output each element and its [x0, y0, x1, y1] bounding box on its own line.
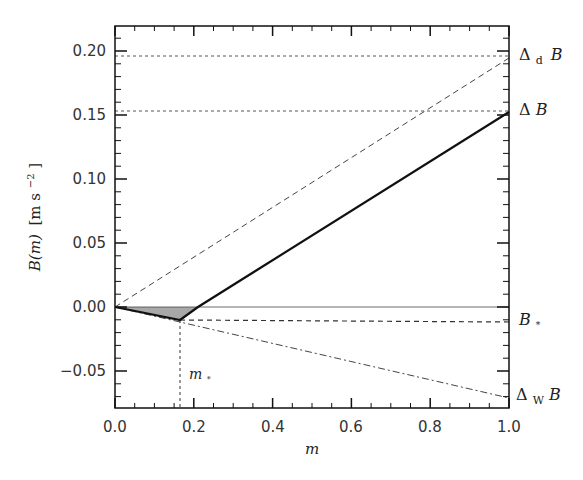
svg-text:B(m) [m s −2: B(m) [m s −2 ] — [20, 163, 44, 272]
svg-text:Δ B: Δ B — [519, 100, 548, 119]
y-tick-label: 0.05 — [73, 234, 106, 252]
annotation-m-star: m * — [189, 366, 211, 384]
y-tick-label: 0.00 — [73, 298, 106, 316]
svg-text:Δ W B: Δ W B — [516, 385, 561, 408]
x-tick-label: 0.2 — [182, 418, 206, 436]
x-tick-labels: 0.0 0.2 0.4 0.6 0.8 1.0 — [103, 418, 521, 436]
y-tick-label: 0.10 — [73, 170, 106, 188]
x-tick-label: 1.0 — [497, 418, 521, 436]
annotation-delta-w-b: Δ W B — [516, 385, 561, 408]
y-axis-label: B(m) [m s −2 ] — [20, 163, 44, 272]
annotation-delta-b: Δ B — [519, 100, 548, 119]
b-star-level — [180, 320, 509, 322]
annotation-delta-d-b: Δ d B — [519, 45, 563, 68]
annotation-b-star: B * — [518, 310, 541, 330]
svg-text:Δ d B: Δ d B — [519, 45, 563, 68]
x-axis-label: m — [305, 440, 319, 458]
y-tick-labels: 0.20 0.15 0.10 0.05 0.00 −0.05 — [60, 42, 106, 380]
y-label-main: B(m) — [26, 234, 44, 272]
x-tick-label: 0.6 — [339, 418, 363, 436]
svg-text:B *: B * — [518, 310, 541, 330]
y-label-close: ] — [26, 163, 44, 169]
y-tick-label: 0.15 — [73, 106, 106, 124]
svg-text:m *: m * — [189, 366, 211, 384]
y-tick-label: 0.20 — [73, 42, 106, 60]
mixing-line — [115, 112, 509, 320]
delta-w-b-line — [115, 307, 509, 398]
plot-frame — [115, 26, 509, 408]
x-tick-label: 0.4 — [261, 418, 285, 436]
plot-area — [115, 56, 509, 408]
x-tick-label: 0.0 — [103, 418, 127, 436]
delta-d-b-line — [115, 58, 509, 307]
y-label-exponent: −2 — [25, 173, 36, 188]
y-tick-label: −0.05 — [60, 362, 106, 380]
axis-ticks — [115, 26, 509, 408]
chart-canvas: 0.20 0.15 0.10 0.05 0.00 −0.05 0.0 0.2 0… — [0, 0, 583, 480]
x-tick-label: 0.8 — [418, 418, 442, 436]
y-label-unit: [m s — [26, 193, 44, 226]
